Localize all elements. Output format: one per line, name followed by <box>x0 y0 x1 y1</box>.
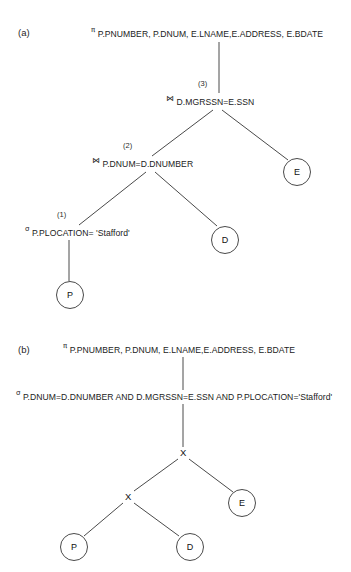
part-b-label: (b) <box>18 345 30 355</box>
node-b-projection: π P.PNUMBER, P.DNUM, E.LNAME,E.ADDRESS, … <box>63 345 295 355</box>
node-b-selection: σ P.DNUM=D.DNUMBER AND D.MGRSSN=E.SSN AN… <box>16 392 332 402</box>
step-label-a-1: (1) <box>57 210 66 219</box>
part-a-label: (a) <box>18 28 30 38</box>
node-a-join-top: ⋈ D.MGRSSN=E.SSN <box>166 97 254 107</box>
query-tree-figure: (a) π P.PNUMBER, P.DNUM, E.LNAME,E.ADDRE… <box>0 0 351 572</box>
node-b-projection-text: P.PNUMBER, P.DNUM, E.LNAME,E.ADDRESS, E.… <box>70 345 295 355</box>
node-b-product-lower: X <box>125 491 131 502</box>
edge-a-join-lower-to-selection <box>79 172 146 225</box>
node-a-relation-e: E <box>283 158 311 186</box>
step-label-a-2: (2) <box>123 141 132 150</box>
tree-edges-layer <box>0 0 351 572</box>
pi-projection-operator-icon: π <box>91 26 95 34</box>
sigma-selection-operator-icon: σ <box>16 389 20 397</box>
sigma-selection-operator-icon: σ <box>25 225 29 233</box>
node-b-selection-text: P.DNUM=D.DNUMBER AND D.MGRSSN=E.SSN AND … <box>23 392 332 402</box>
node-a-projection: π P.PNUMBER, P.DNUM, E.LNAME,E.ADDRESS, … <box>91 29 323 39</box>
node-a-selection: σ P.PLOCATION= 'Stafford' <box>25 228 130 238</box>
edge-b-product-top-to-product-lower <box>134 459 178 491</box>
node-a-selection-text: P.PLOCATION= 'Stafford' <box>32 228 130 238</box>
bowtie-join-operator-icon: ⋈ <box>92 156 100 165</box>
step-label-a-3: (3) <box>198 79 207 88</box>
node-a-relation-p: P <box>56 281 84 309</box>
node-a-join-lower: ⋈ P.DNUM=D.DNUMBER <box>92 159 193 169</box>
bowtie-join-operator-icon: ⋈ <box>166 94 174 103</box>
edge-b-product-top-to-relation-e <box>189 459 233 492</box>
node-a-join-top-text: D.MGRSSN=E.SSN <box>177 97 255 107</box>
node-a-join-lower-text: P.DNUM=D.DNUMBER <box>103 159 194 169</box>
edge-b-product-lower-to-relation-p <box>84 503 123 536</box>
edge-a-join-top-to-join-lower <box>152 110 213 156</box>
pi-projection-operator-icon: π <box>63 342 67 350</box>
edge-a-join-lower-to-relation-d <box>155 172 217 226</box>
edge-a-join-top-to-relation-e <box>222 110 288 160</box>
node-a-relation-d: D <box>211 226 239 254</box>
node-b-relation-p: P <box>60 533 88 561</box>
node-b-product-top: X <box>180 447 186 458</box>
node-b-relation-e: E <box>228 489 256 517</box>
node-b-relation-d: D <box>176 533 204 561</box>
edge-b-product-lower-to-relation-d <box>134 503 179 536</box>
node-a-projection-text: P.PNUMBER, P.DNUM, E.LNAME,E.ADDRESS, E.… <box>98 29 323 39</box>
